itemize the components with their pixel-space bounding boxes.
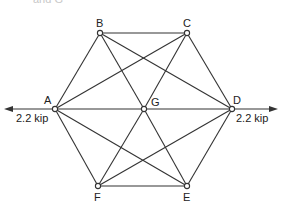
load-label-right: 2.2 kip [236, 112, 268, 124]
load-right: 2.2 kip [232, 106, 278, 124]
member-df [98, 109, 232, 186]
joint-a [52, 106, 57, 111]
joint-c [184, 30, 189, 35]
arrow-right-icon [269, 106, 278, 112]
load-left: 2.2 kip [4, 106, 55, 124]
label-d: D [233, 94, 241, 106]
arrow-left-icon [4, 106, 13, 112]
label-f: F [94, 191, 101, 203]
load-label-left: 2.2 kip [16, 112, 48, 124]
label-c: C [183, 17, 191, 29]
label-e: E [183, 191, 190, 203]
joint-g [141, 106, 146, 111]
joint-b [97, 30, 102, 35]
joint-f [95, 183, 100, 188]
member-ac [55, 33, 187, 109]
label-a: A [44, 94, 52, 106]
member-cd [187, 33, 232, 109]
member-ab [55, 33, 100, 109]
label-g: G [151, 96, 160, 108]
member-af [55, 109, 98, 186]
member-de [187, 109, 232, 186]
joint-d [229, 106, 234, 111]
label-b: B [96, 17, 103, 29]
truss-diagram: 2.2 kip 2.2 kip A B C D E F G [0, 0, 282, 207]
joint-e [184, 183, 189, 188]
member-gf [98, 109, 144, 186]
